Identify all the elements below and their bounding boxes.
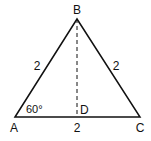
vertex-label-c: C [136,121,145,135]
angle-label-a: 60° [26,103,43,115]
triangle-diagram: B A C D 2 2 2 60° [0,0,151,141]
side-label-ab: 2 [34,59,41,73]
side-label-bc: 2 [113,59,120,73]
point-label-d: D [80,103,89,117]
vertex-label-a: A [10,121,18,135]
side-label-ac: 2 [74,121,81,135]
vertex-label-b: B [73,3,81,17]
